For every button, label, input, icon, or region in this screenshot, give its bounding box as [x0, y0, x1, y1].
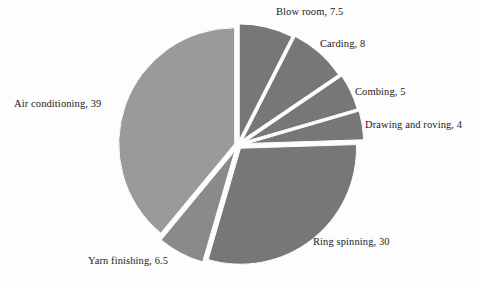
pie-label-blow-room: Blow room, 7.5 — [276, 6, 343, 18]
pie-label-carding: Carding, 8 — [320, 38, 365, 50]
pie-label-air-conditioning: Air conditioning, 39 — [14, 98, 101, 110]
pie-chart-canvas — [0, 0, 478, 285]
pie-chart-figure: Blow room, 7.5 Carding, 8 Combing, 5 Dra… — [0, 0, 478, 285]
pie-label-ring-spinning: Ring spinning, 30 — [313, 236, 390, 248]
pie-slice-group — [119, 24, 364, 264]
pie-label-combing: Combing, 5 — [355, 86, 406, 98]
pie-label-drawing-and-roving: Drawing and roving, 4 — [365, 119, 462, 131]
pie-label-yarn-finishing: Yarn finishing, 6.5 — [88, 255, 168, 267]
